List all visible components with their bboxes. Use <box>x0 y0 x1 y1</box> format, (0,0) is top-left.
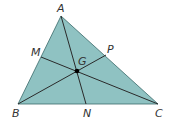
label-c: C <box>155 107 163 120</box>
label-g: G <box>78 55 87 68</box>
label-p: P <box>107 43 114 56</box>
label-a: A <box>56 2 65 15</box>
label-n: N <box>83 107 91 120</box>
triangle-abc <box>18 16 158 104</box>
point-g <box>75 69 80 74</box>
triangle-diagram: A B C M P N G <box>0 0 171 124</box>
label-m: M <box>31 46 41 59</box>
label-b: B <box>12 107 20 120</box>
